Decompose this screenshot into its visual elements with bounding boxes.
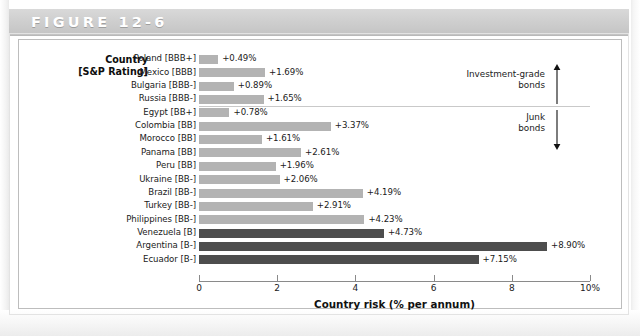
y-axis-caption-line2: [S&P Rating]	[52, 66, 148, 78]
page-edge-bottom	[0, 310, 640, 336]
figure-number-label: FIGURE 12-6	[31, 14, 168, 30]
y-axis-caption: Country [S&P Rating]	[52, 54, 148, 79]
annotation-junk-line1: Junk	[440, 112, 545, 123]
annotation-investment-grade-line2: bonds	[440, 80, 545, 91]
arrow-down-icon	[552, 108, 562, 150]
annotation-investment-grade-line1: Investment-grade	[440, 69, 545, 80]
annotation-junk-bonds: Junk bonds	[440, 112, 545, 134]
page-edge-left	[0, 0, 9, 336]
annotation-junk-line2: bonds	[440, 123, 545, 134]
annotation-investment-grade: Investment-grade bonds	[440, 69, 545, 91]
y-axis-caption-line1: Country	[52, 54, 148, 66]
arrow-up-icon	[552, 64, 562, 106]
page-edge-right	[631, 0, 640, 336]
figure-banner: FIGURE 12-6	[9, 9, 629, 36]
figure-shell: FIGURE 12-6 Country [S&P Rating] Poland …	[0, 0, 640, 336]
